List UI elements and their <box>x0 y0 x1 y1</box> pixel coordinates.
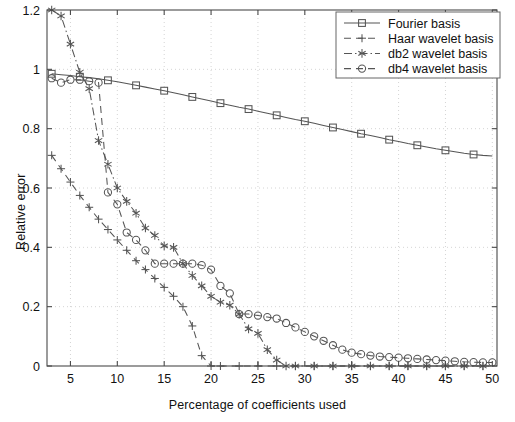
chart-legend[interactable]: Fourier basisHaar wavelet basisdb2 wavel… <box>336 12 500 78</box>
data-point-marker <box>132 236 139 243</box>
series-3 <box>48 75 496 366</box>
chart-figure: Relative error Percentage of coefficient… <box>0 0 515 422</box>
y-tick-label: 1.2 <box>23 4 40 18</box>
legend-label: Fourier basis <box>388 17 460 31</box>
x-tick-label: 35 <box>345 372 359 386</box>
data-point-marker <box>217 282 224 289</box>
x-tick-label: 30 <box>298 372 312 386</box>
x-tick-label: 25 <box>251 372 265 386</box>
series-1 <box>48 151 493 370</box>
legend-label: Haar wavelet basis <box>388 32 494 46</box>
data-point-marker <box>282 319 289 326</box>
data-point-marker <box>339 346 346 353</box>
y-tick-label: 0.8 <box>23 122 40 136</box>
plot-canvas: 510152025303540455000.20.40.60.811.2 Fou… <box>0 0 515 422</box>
y-tick-label: 0.4 <box>23 241 40 255</box>
x-tick-label: 45 <box>438 372 452 386</box>
data-point-marker <box>273 315 280 322</box>
data-point-marker <box>57 79 64 86</box>
series-0 <box>48 70 492 157</box>
y-tick-label: 0.6 <box>23 182 40 196</box>
x-tick-label: 15 <box>157 372 171 386</box>
data-point-marker <box>123 229 130 236</box>
x-tick-label: 40 <box>392 372 406 386</box>
data-point-marker <box>292 324 299 331</box>
x-tick-label: 50 <box>485 372 499 386</box>
y-tick-label: 0 <box>33 360 40 374</box>
y-tick-label: 1 <box>33 63 40 77</box>
x-tick-label: 5 <box>67 372 74 386</box>
legend-label: db4 wavelet basis <box>388 62 487 76</box>
y-tick-label: 0.2 <box>23 300 40 314</box>
legend-label: db2 wavelet basis <box>388 47 487 61</box>
data-point-marker <box>226 290 233 297</box>
x-tick-label: 20 <box>204 372 218 386</box>
x-tick-label: 10 <box>110 372 124 386</box>
